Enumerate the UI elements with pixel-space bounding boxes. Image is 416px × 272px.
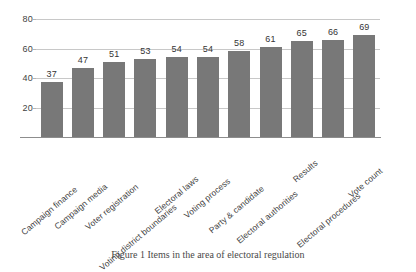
figure-caption: Figure 1 Items in the area of electoral … (0, 249, 416, 261)
bar[interactable] (166, 57, 188, 137)
bar-value-label: 65 (286, 29, 317, 38)
bar-slot: 53 (130, 19, 161, 137)
bar-slot: 54 (161, 19, 192, 137)
bar-value-label: 47 (67, 56, 98, 65)
bar-slot: 61 (255, 19, 286, 137)
bar[interactable] (197, 57, 219, 137)
bar-slot: 54 (192, 19, 223, 137)
bar-slot: 65 (286, 19, 317, 137)
bar-slot: 37 (36, 19, 67, 137)
bar[interactable] (291, 41, 313, 137)
bar-value-label: 54 (161, 45, 192, 54)
bar-slot: 66 (317, 19, 348, 137)
x-axis-label: Results (291, 159, 319, 185)
bar-value-label: 37 (36, 70, 67, 79)
bar[interactable] (228, 51, 250, 137)
bar-slot: 58 (224, 19, 255, 137)
y-axis-tick-label: 40 (3, 74, 33, 83)
x-axis-label: Vote count (347, 166, 384, 199)
bar-slot: 47 (67, 19, 98, 137)
bar-series: 3747515354545861656669 (36, 19, 380, 137)
bar-value-label: 51 (99, 50, 130, 59)
bar[interactable] (260, 47, 282, 137)
x-axis-label: Electoral procedures (296, 191, 363, 249)
bar[interactable] (103, 62, 125, 137)
bar-value-label: 54 (192, 45, 223, 54)
bar[interactable] (41, 82, 63, 137)
bar[interactable] (322, 40, 344, 137)
y-axis-tick-label: 20 (3, 104, 33, 113)
bar-value-label: 53 (130, 47, 161, 56)
bar[interactable] (134, 59, 156, 137)
bar[interactable] (353, 35, 375, 137)
bar-value-label: 66 (317, 28, 348, 37)
y-axis-tick-label: 80 (3, 15, 33, 24)
y-axis: 20406080 (0, 0, 33, 258)
bar-slot: 69 (349, 19, 380, 137)
y-axis-tick-label: 60 (3, 45, 33, 54)
x-axis-line (20, 137, 381, 138)
bar-slot: 51 (99, 19, 130, 137)
bar-value-label: 58 (224, 39, 255, 48)
bar-value-label: 69 (349, 23, 380, 32)
bar[interactable] (72, 68, 94, 137)
bar-value-label: 61 (255, 35, 286, 44)
